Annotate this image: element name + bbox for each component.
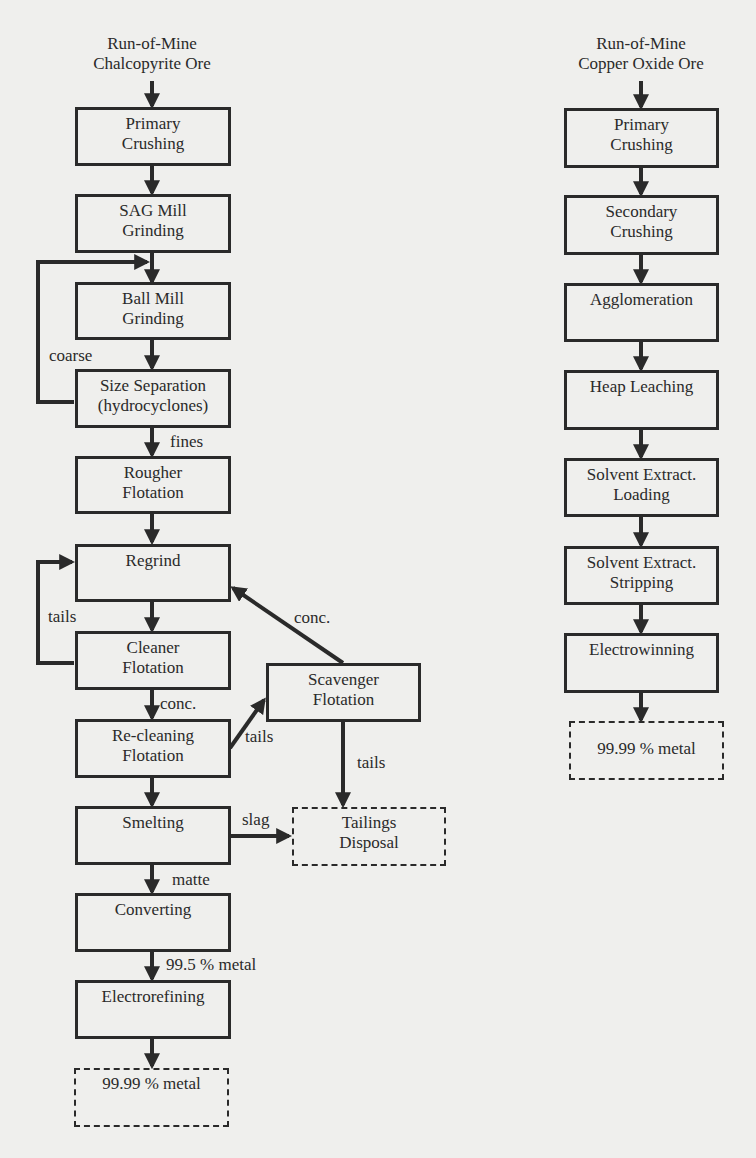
copper-oxide-ore-source: Run-of-Mine Copper Oxide Ore (541, 34, 741, 74)
tailings-disposal-terminal: Tailings Disposal (292, 807, 446, 866)
step-electrowinning: Electrowinning (564, 633, 719, 693)
label-conc-scavenger: conc. (294, 608, 330, 628)
step-regrind: Regrind (75, 544, 231, 602)
step-smelting: Smelting (75, 806, 231, 865)
flowsheet-diagram: Run-of-Mine Chalcopyrite Ore Primary Cru… (0, 0, 756, 1158)
product-terminal-right: 99.99 % metal (569, 721, 724, 780)
step-scavenger-flotation: Scavenger Flotation (266, 663, 421, 722)
step-rougher-flotation: Rougher Flotation (75, 456, 231, 514)
step-primary-crushing-left: Primary Crushing (75, 107, 231, 166)
label-conc-cleaner: conc. (160, 694, 196, 714)
step-sx-loading: Solvent Extract. Loading (564, 458, 719, 517)
chalcopyrite-ore-source: Run-of-Mine Chalcopyrite Ore (52, 34, 252, 74)
step-primary-crushing-right: Primary Crushing (564, 108, 719, 168)
label-slag: slag (242, 810, 269, 830)
label-fines: fines (170, 432, 203, 452)
label-tails-loop: tails (48, 607, 76, 627)
step-electrorefining: Electrorefining (75, 980, 231, 1039)
step-sx-stripping: Solvent Extract. Stripping (564, 546, 719, 605)
step-recleaning-flotation: Re-cleaning Flotation (75, 719, 231, 778)
label-tails-recleaning: tails (245, 727, 273, 747)
step-cleaner-flotation: Cleaner Flotation (75, 631, 231, 690)
label-matte: matte (172, 870, 210, 890)
step-ball-mill-grinding: Ball Mill Grinding (75, 282, 231, 340)
step-agglomeration: Agglomeration (564, 283, 719, 342)
step-converting: Converting (75, 893, 231, 952)
label-coarse: coarse (49, 346, 92, 366)
step-size-separation: Size Separation (hydrocyclones) (75, 369, 231, 428)
label-blister-copper: 99.5 % metal (166, 955, 256, 975)
step-secondary-crushing: Secondary Crushing (564, 195, 719, 255)
step-heap-leaching: Heap Leaching (564, 370, 719, 430)
label-tails-scavenger: tails (357, 753, 385, 773)
product-terminal-left: 99.99 % metal (74, 1068, 229, 1127)
step-sag-mill-grinding: SAG Mill Grinding (75, 194, 231, 253)
